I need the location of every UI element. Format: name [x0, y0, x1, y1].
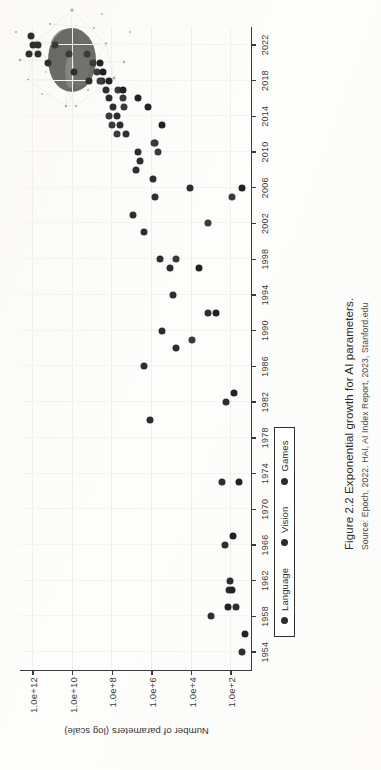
data-point-vision	[108, 122, 115, 129]
gridline-vertical	[20, 401, 251, 402]
data-point-language	[172, 345, 179, 352]
y-tick-label: 1.0e+10	[67, 677, 78, 713]
x-tick-mark	[251, 509, 256, 510]
gridline-vertical	[20, 187, 251, 188]
data-point-language	[169, 291, 176, 298]
x-tick-mark	[251, 223, 256, 224]
gridline-vertical	[20, 615, 251, 616]
legend-item-language[interactable]: Language	[279, 568, 290, 624]
x-tick-label: 1986	[260, 356, 270, 377]
y-axis-title: Number of parameters (log scale)	[20, 723, 252, 741]
data-point-language	[132, 166, 139, 173]
data-point-language	[226, 577, 233, 584]
x-tick-label: 2006	[260, 177, 270, 198]
caption-source: Source: Epoch, 2022. HAI, AI Index Repor…	[360, 220, 372, 550]
data-point-language	[146, 416, 153, 423]
x-tick-label: 1970	[260, 499, 270, 520]
x-tick-mark	[251, 580, 256, 581]
data-point-language	[105, 95, 112, 102]
gridline-horizontal	[150, 27, 151, 670]
x-tick-mark	[251, 366, 256, 367]
x-tick-mark	[251, 259, 256, 260]
x-tick-mark	[251, 116, 256, 117]
gridline-vertical	[20, 222, 251, 223]
data-point-language	[27, 32, 34, 39]
x-tick-mark	[251, 44, 256, 45]
data-point-vision	[188, 336, 195, 343]
data-point-vision	[113, 131, 120, 138]
gridline-vertical	[20, 330, 251, 331]
gridline-vertical	[20, 258, 251, 259]
legend-item-vision[interactable]: Vision	[279, 507, 290, 546]
data-point-language	[129, 211, 136, 218]
data-point-language	[221, 541, 228, 548]
y-tick-mark	[151, 670, 152, 675]
data-point-games	[119, 86, 126, 93]
y-tick-label: 1.0e+12	[27, 677, 38, 713]
gridline-horizontal	[31, 27, 32, 670]
x-tick-label: 2022	[260, 34, 270, 55]
data-point-language	[102, 86, 109, 93]
x-tick-label: 1962	[260, 570, 270, 591]
data-point-games	[99, 68, 106, 75]
data-point-language	[149, 175, 156, 182]
x-tick-label: 1958	[260, 606, 270, 627]
x-tick-label: 1994	[260, 285, 270, 306]
data-point-vision	[204, 220, 211, 227]
data-point-vision	[150, 140, 157, 147]
data-point-language	[29, 41, 36, 48]
y-tick-mark	[71, 670, 72, 675]
y-tick-label: 1.0e+2	[225, 677, 236, 708]
y-tick-mark	[111, 670, 112, 675]
x-tick-label: 1998	[260, 249, 270, 270]
data-point-games	[238, 184, 245, 191]
scanned-page: Number of parameters (log scale) 1.0e+21…	[0, 0, 381, 770]
x-tick-mark	[251, 544, 256, 545]
data-point-language	[166, 265, 173, 272]
data-point-vision	[119, 95, 126, 102]
data-point-language	[151, 193, 158, 200]
data-point-language	[116, 122, 123, 129]
y-tick-mark	[32, 670, 33, 675]
gridline-vertical	[20, 437, 251, 438]
x-tick-mark	[251, 151, 256, 152]
x-tick-label: 2010	[260, 142, 270, 163]
gridline-vertical	[20, 115, 251, 116]
legend-label: Games	[279, 440, 290, 471]
data-point-vision	[120, 104, 127, 111]
data-point-games	[224, 604, 231, 611]
data-point-language	[207, 613, 214, 620]
data-point-games	[144, 104, 151, 111]
x-tick-label: 1966	[260, 535, 270, 556]
x-tick-label: 1954	[260, 642, 270, 663]
data-point-games	[195, 265, 202, 272]
y-tick-label: 1.0e+8	[106, 677, 117, 708]
x-tick-mark	[251, 294, 256, 295]
y-tick-mark	[230, 670, 231, 675]
data-point-language	[25, 50, 32, 57]
legend-marker-icon	[281, 617, 288, 624]
data-point-language	[158, 327, 165, 334]
gridline-vertical	[20, 365, 251, 366]
x-tick-mark	[251, 616, 256, 617]
data-point-vision	[65, 50, 72, 57]
data-point-vision	[154, 149, 161, 156]
data-point-vision	[51, 41, 58, 48]
legend-marker-icon	[281, 478, 288, 485]
data-point-language	[44, 59, 51, 66]
y-tick-mark	[190, 670, 191, 675]
legend-label: Vision	[279, 507, 290, 533]
data-point-games	[212, 309, 219, 316]
x-tick-label: 1990	[260, 320, 270, 341]
y-tick-label: 1.0e+6	[146, 677, 157, 708]
data-point-language	[122, 131, 129, 138]
gridline-vertical	[20, 508, 251, 509]
x-tick-label: 2018	[260, 70, 270, 91]
legend-item-games[interactable]: Games	[279, 440, 290, 484]
figure-caption: Figure 2.2 Exponential growth for AI par…	[342, 220, 371, 550]
gridline-vertical	[20, 294, 251, 295]
data-point-language	[156, 256, 163, 263]
data-point-language	[204, 309, 211, 316]
data-point-language	[85, 77, 92, 84]
data-point-games	[241, 631, 248, 638]
